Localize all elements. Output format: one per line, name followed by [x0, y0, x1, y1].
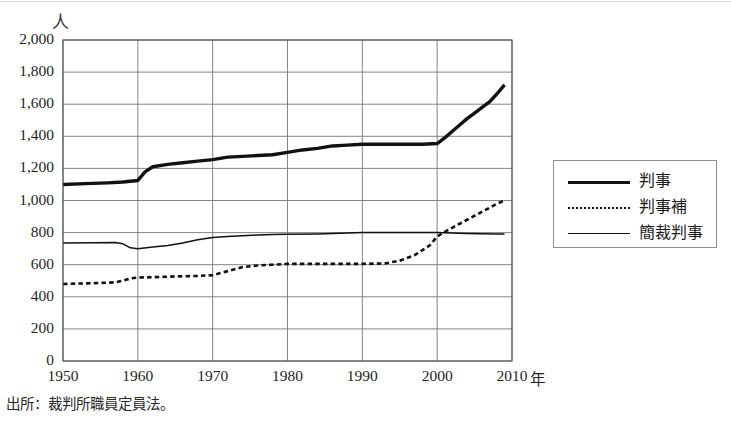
- legend-item-簡裁判事: 簡裁判事: [554, 219, 718, 247]
- legend-item-label: 判事補: [639, 199, 687, 215]
- x-tick-label: 1970: [178, 367, 248, 385]
- y-tick-label: 800: [6, 223, 54, 241]
- y-tick-label: 1,600: [6, 94, 54, 112]
- chart-gridlines: [63, 40, 512, 361]
- x-tick-label: 1990: [327, 367, 397, 385]
- source-note: 出所：裁判所職員定員法。: [6, 392, 174, 413]
- chart-legend: 判事判事補簡裁判事: [553, 160, 717, 248]
- y-tick-label: 1,800: [6, 62, 54, 80]
- x-tick-label: 2000: [402, 367, 472, 385]
- chart-figure: 人 02004006008001,0001,2001,4001,6001,800…: [0, 0, 731, 421]
- legend-item-判事: 判事: [554, 167, 718, 195]
- y-tick-label: 1,000: [6, 191, 54, 209]
- x-tick-label: 1950: [28, 367, 98, 385]
- y-tick-label: 600: [6, 255, 54, 273]
- y-tick-label: 1,400: [6, 126, 54, 144]
- y-tick-label: 400: [6, 287, 54, 305]
- x-axis-unit-label: 年: [530, 367, 546, 389]
- legend-line-swatch-icon: [568, 200, 630, 214]
- legend-line-swatch-icon: [568, 226, 630, 240]
- x-tick-label: 1980: [253, 367, 323, 385]
- legend-item-label: 判事: [639, 173, 671, 189]
- y-tick-label: 1,200: [6, 158, 54, 176]
- chart-series-group: [63, 85, 505, 284]
- legend-line-swatch-icon: [568, 174, 630, 188]
- y-tick-label: 2,000: [6, 30, 54, 48]
- series-line-判事補: [63, 201, 505, 284]
- series-line-判事: [63, 85, 505, 185]
- legend-item-label: 簡裁判事: [639, 225, 703, 241]
- y-tick-label: 200: [6, 319, 54, 337]
- x-tick-label: 1960: [103, 367, 173, 385]
- legend-item-判事補: 判事補: [554, 193, 718, 221]
